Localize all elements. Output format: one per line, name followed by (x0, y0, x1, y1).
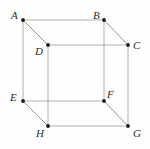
vertex-label-e: E (10, 92, 17, 103)
vertex-label-a: A (11, 10, 18, 21)
cube-wireframe-svg (0, 0, 150, 149)
vertex-label-b: B (93, 10, 100, 21)
vertex-label-g: G (133, 128, 141, 139)
vertex-label-h: H (36, 128, 44, 139)
vertex-label-c: C (133, 40, 140, 51)
vertex-dot-h (46, 124, 50, 128)
vertex-dot-b (102, 18, 106, 22)
vertex-dot-e (21, 99, 25, 103)
cube-edge-ad (23, 20, 48, 45)
cube-figure: ABCDEFGH (0, 0, 150, 149)
cube-edge-eh (23, 101, 48, 126)
vertex-dot-f (102, 99, 106, 103)
cube-edge-bc (104, 20, 128, 45)
vertex-dot-d (46, 43, 50, 47)
vertex-dot-a (21, 18, 25, 22)
vertex-dot-g (126, 124, 130, 128)
cube-edge-fg (104, 101, 128, 126)
vertex-label-d: D (35, 46, 43, 57)
vertex-dot-c (126, 43, 130, 47)
vertex-label-f: F (107, 89, 114, 100)
edge-layer (23, 20, 128, 126)
